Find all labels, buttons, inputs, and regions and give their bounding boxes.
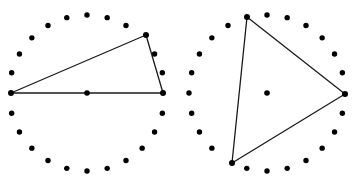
ring-dot [45, 23, 50, 28]
ring-dot [17, 51, 22, 56]
ring-dot [244, 166, 249, 171]
ring-dot [340, 110, 345, 115]
ring-dot [332, 51, 337, 56]
ring-dot [64, 166, 69, 171]
ring-dot [29, 145, 34, 150]
triangle-vertex-F [229, 160, 235, 166]
ring-dot [123, 158, 128, 163]
ring-dot [319, 145, 324, 150]
ring-dot [189, 70, 194, 75]
right-center-dot [264, 90, 270, 96]
triangle-vertex-B [143, 32, 149, 38]
ring-dot [225, 23, 230, 28]
ring-dot [209, 35, 214, 40]
ring-dot [9, 110, 14, 115]
ring-dot [160, 110, 165, 115]
ring-dot [84, 12, 89, 17]
triangle-vertex-C [160, 90, 166, 96]
center-dot [264, 90, 270, 96]
ring-dot [189, 110, 194, 115]
ring-dot [9, 70, 14, 75]
ring-dot [264, 12, 269, 17]
ring-dot [152, 129, 157, 134]
ring-dot [123, 23, 128, 28]
triangle-vertex-A [8, 90, 14, 96]
ring-dot [284, 166, 289, 171]
ring-dot [319, 35, 324, 40]
ring-dot [45, 158, 50, 163]
ring-dot [209, 145, 214, 150]
ring-dot [303, 158, 308, 163]
ring-dot [197, 51, 202, 56]
ring-dot [84, 168, 89, 173]
triangle-vertex-E [342, 91, 348, 97]
triangle-vertex-D [244, 14, 250, 20]
ring-dot [303, 23, 308, 28]
ring-dot [284, 15, 289, 20]
ring-dot [17, 129, 22, 134]
ring-dot [29, 35, 34, 40]
ring-dot [104, 15, 109, 20]
left-center-dot [84, 90, 90, 96]
ring-dot [64, 15, 69, 20]
ring-dot [264, 168, 269, 173]
ring-dot [139, 145, 144, 150]
ring-dot [104, 166, 109, 171]
figure-canvas [0, 0, 358, 185]
ring-dot [332, 129, 337, 134]
center-dot [84, 90, 90, 96]
ring-dot [197, 129, 202, 134]
ring-dot [340, 70, 345, 75]
ring-dot [160, 70, 165, 75]
ring-dot [186, 90, 191, 95]
